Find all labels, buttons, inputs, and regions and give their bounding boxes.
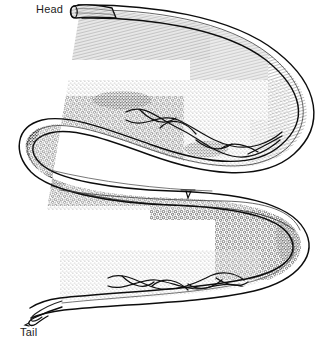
head-label: Head <box>36 3 63 16</box>
figure-root: Head Tail <box>0 0 327 347</box>
nematode-illustration <box>0 0 327 347</box>
tail-label: Tail <box>20 326 37 339</box>
head-region <box>70 5 116 18</box>
